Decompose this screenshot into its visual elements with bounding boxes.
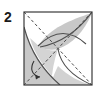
origami-step-figure: 2 (0, 0, 101, 94)
origami-diagram-svg (0, 0, 101, 94)
